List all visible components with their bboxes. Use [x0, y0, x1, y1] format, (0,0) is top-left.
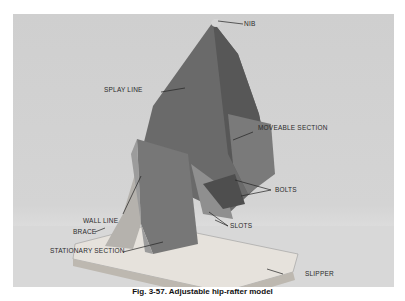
label-moveable-section: MOVEABLE SECTION [258, 124, 328, 131]
label-slots: SLOTS [230, 222, 252, 229]
label-splay-line: SPLAY LINE [104, 86, 143, 93]
label-brace: BRACE [73, 228, 96, 235]
label-stationary-section: STATIONARY SECTION [50, 247, 125, 254]
label-nib: NIB [244, 20, 255, 27]
label-slipper: SLIPPER [305, 270, 334, 277]
figure-photo: NIB SPLAY LINE MOVEABLE SECTION BOLTS WA… [13, 14, 394, 287]
label-wall-line: WALL LINE [83, 217, 118, 224]
figure-caption: Fig. 3-57. Adjustable hip-rafter model [0, 287, 405, 296]
label-bolts: BOLTS [275, 186, 297, 193]
